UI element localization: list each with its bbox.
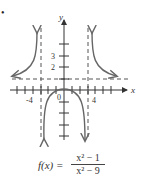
- origin-label: 0: [57, 93, 61, 102]
- y-tick-label-3: 3: [51, 52, 55, 61]
- x-axis-label: x: [130, 85, 135, 95]
- formula-lhs: f(x) =: [38, 159, 63, 171]
- list-bullet: •: [1, 7, 5, 18]
- y-tick-label-2: 2: [51, 63, 55, 72]
- formula-denominator: x² − 9: [70, 165, 106, 177]
- curve-right-branch: [92, 32, 116, 76]
- formula-numerator: x² − 1: [70, 152, 106, 164]
- curve-left-branch: [13, 32, 37, 76]
- function-formula: f(x) = x² − 1 x² − 9: [38, 152, 118, 180]
- x-tick-label-neg4: -4: [26, 96, 33, 105]
- x-tick-label-4: 4: [92, 96, 96, 105]
- y-axis-label: y: [58, 12, 63, 22]
- formula-fraction: x² − 1 x² − 9: [70, 152, 106, 177]
